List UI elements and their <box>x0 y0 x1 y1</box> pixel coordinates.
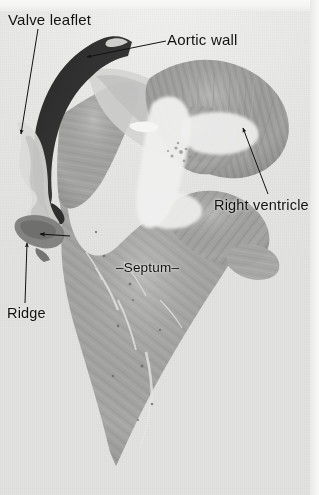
label-valve-leaflet: Valve leaflet <box>8 12 91 27</box>
label-right-ventricle: Right ventricle <box>214 198 309 213</box>
label-ridge: Ridge <box>7 306 46 321</box>
histology-figure: Valve leaflet Aortic wall Right ventricl… <box>0 0 319 495</box>
label-aortic-wall: Aortic wall <box>167 32 238 47</box>
label-septum: –Septum– <box>116 261 179 275</box>
tissue-specimen <box>0 0 319 495</box>
